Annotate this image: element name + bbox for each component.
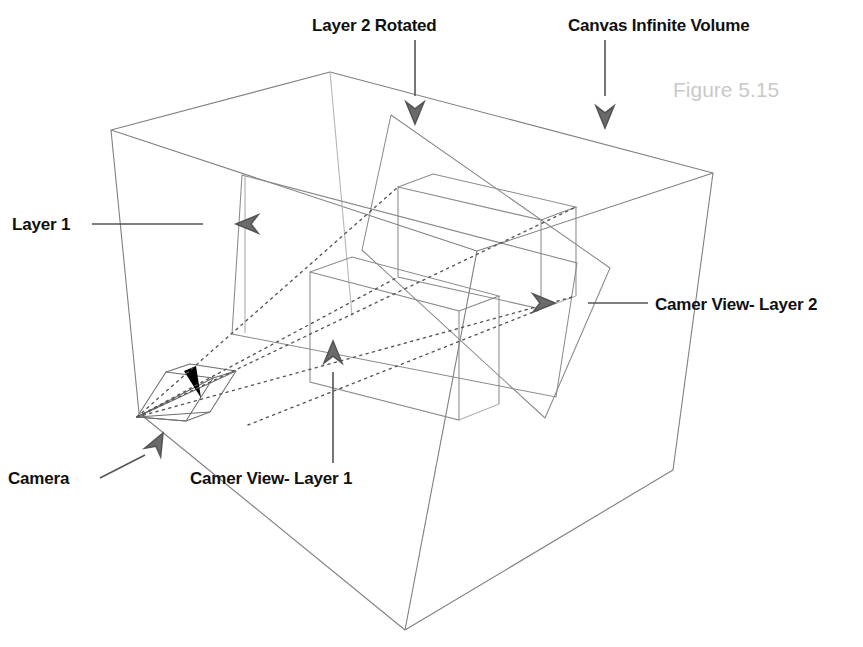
- camera-front-face: [137, 372, 213, 421]
- leader-line-camera: [100, 455, 145, 478]
- box-edge-bottom-right: [405, 470, 673, 630]
- arrowhead-canvas-volume: [596, 106, 614, 128]
- label-camera: Camera: [8, 469, 69, 489]
- box-edge-right: [673, 173, 713, 470]
- leader-layer-1: [92, 215, 258, 233]
- layer-2-quad: [362, 115, 610, 418]
- frustum-far-bottom: [248, 309, 541, 425]
- label-camera-view-layer-1: Camer View- Layer 1: [190, 469, 352, 489]
- label-canvas-infinite-volume: Canvas Infinite Volume: [568, 16, 749, 36]
- box-edge-back: [330, 72, 352, 316]
- arrowhead-camview-layer-2: [533, 294, 555, 312]
- frustum-ray-bottom-left: [137, 277, 398, 417]
- label-layer-2-rotated: Layer 2 Rotated: [312, 16, 437, 36]
- camview-layer-2-rect: [398, 174, 576, 309]
- leader-layer-2-rotated: [406, 40, 424, 124]
- camview-layer-1-rect: [310, 257, 499, 420]
- camview-2-depth-top: [398, 174, 576, 220]
- camera-apex-line-2: [137, 417, 186, 421]
- camview-1-depth-bottom: [459, 404, 499, 420]
- frustum-ray-bottom-right: [137, 296, 576, 417]
- leader-camview-layer-1: [324, 341, 342, 463]
- frustum-ray-top-left: [137, 187, 398, 417]
- layer-2-rotated-plane: [362, 115, 610, 418]
- arrowhead-layer-2-rotated: [406, 102, 424, 124]
- label-layer-1: Layer 1: [12, 215, 70, 235]
- figure-number-tag: Figure 5.15: [673, 78, 779, 102]
- figure-canvas: Layer 2 Rotated Canvas Infinite Volume L…: [0, 0, 863, 647]
- leader-camera: [100, 429, 171, 478]
- canvas-infinite-volume-box: [111, 72, 713, 630]
- view-frustum-rays: [137, 187, 576, 425]
- box-edge-left: [111, 130, 139, 413]
- label-camera-view-layer-2: Camer View- Layer 2: [655, 295, 817, 315]
- leader-canvas-volume: [596, 40, 614, 128]
- box-edge-bottom-left: [139, 413, 405, 630]
- arrowhead-camera: [145, 429, 171, 457]
- leader-camview-layer-2: [533, 294, 648, 312]
